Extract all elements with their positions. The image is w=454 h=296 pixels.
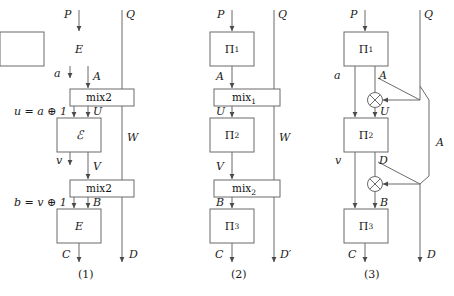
d2-caption: (2) xyxy=(231,268,247,281)
d2-input-q: Q xyxy=(278,8,287,21)
d3-wire-b: B xyxy=(380,196,388,209)
d3-box-pi-2: Π2 xyxy=(344,118,388,152)
pi-3-glyph: Π xyxy=(225,220,235,233)
d3-wire-a-upper: A xyxy=(379,69,387,82)
pi-1-sub: 1 xyxy=(234,45,239,54)
d1-output-d: D xyxy=(129,248,138,261)
d2-output-d-prime: D′ xyxy=(280,248,291,261)
d1-output-c: C xyxy=(62,248,70,261)
d3-box-pi-1: Π1 xyxy=(344,32,388,66)
d2-wire-u: U xyxy=(216,105,225,118)
d3-wire-d: D xyxy=(379,154,388,167)
pi-3-sub: 3 xyxy=(368,222,373,231)
d1-wire-v: V xyxy=(93,160,101,173)
d3-wire-v: v xyxy=(335,154,341,167)
d2-box-mix-1: mix1 xyxy=(232,91,256,106)
d1-input-q: Q xyxy=(126,8,135,21)
d3-input-q: Q xyxy=(424,8,433,21)
d2-box-pi-1: Π1 xyxy=(210,32,254,66)
d2-wire-a: A xyxy=(216,70,224,83)
d1-box-e-top: E xyxy=(57,32,101,66)
pi-1-glyph: Π xyxy=(359,43,369,56)
d2-wire-b: B xyxy=(216,196,224,209)
d1-wire-w: W xyxy=(127,131,138,144)
d2-wire-w: W xyxy=(279,131,290,144)
d1-box-e-bottom: E xyxy=(57,209,101,243)
pi-2-glyph: Π xyxy=(359,129,369,142)
d1-label-v: v xyxy=(56,154,62,167)
d3-wire-a-small: a xyxy=(334,69,341,82)
pi-2-sub: 2 xyxy=(368,131,373,140)
script-e-glyph: ℰ xyxy=(76,128,83,142)
pi-2-sub: 2 xyxy=(234,131,239,140)
d3-caption: (3) xyxy=(364,268,380,281)
d1-label-b-eq: b = v ⊕ 1 xyxy=(14,196,67,209)
pi-1-sub: 1 xyxy=(368,45,373,54)
pi-3-sub: 3 xyxy=(234,222,239,231)
d1-box-mix2-lower: mix2 xyxy=(86,182,112,194)
d3-output-d: D xyxy=(427,248,436,261)
d1-caption: (1) xyxy=(78,268,94,281)
d1-box-script-e: ℰ xyxy=(57,118,101,152)
d3-wire-u: U xyxy=(380,105,389,118)
d1-wire-a: A xyxy=(93,70,101,83)
pi-1-glyph: Π xyxy=(225,43,235,56)
mix-1-sub: 1 xyxy=(251,97,256,106)
pi-2-glyph: Π xyxy=(225,129,235,142)
d1-box-mix2-upper: mix2 xyxy=(86,91,112,103)
d2-input-p: P xyxy=(217,8,224,21)
d1-label-a: a xyxy=(54,67,61,80)
mix-1-glyph: mix xyxy=(232,91,251,103)
d2-box-mix-2: mix2 xyxy=(232,182,256,197)
figure-canvas: P Q E a A mix2 u = a ⊕ 1 U ℰ v V W mix2 … xyxy=(0,0,454,296)
mix-2-glyph: mix xyxy=(232,182,251,194)
d3-input-p: P xyxy=(350,8,357,21)
d1-wire-u: U xyxy=(93,105,102,118)
d2-wire-v: V xyxy=(216,160,224,173)
mix-2-sub: 2 xyxy=(251,188,256,197)
d3-box-pi-3: Π3 xyxy=(344,209,388,243)
d3-output-c: C xyxy=(348,248,356,261)
d1-wire-b: B xyxy=(93,196,101,209)
d2-output-c: C xyxy=(215,248,223,261)
d3-wire-a-right: A xyxy=(436,136,444,149)
d2-box-pi-2: Π2 xyxy=(210,118,254,152)
d1-input-p: P xyxy=(64,8,71,21)
d1-label-u-eq: u = a ⊕ 1 xyxy=(14,105,67,118)
d2-box-pi-3: Π3 xyxy=(210,209,254,243)
pi-3-glyph: Π xyxy=(359,220,369,233)
